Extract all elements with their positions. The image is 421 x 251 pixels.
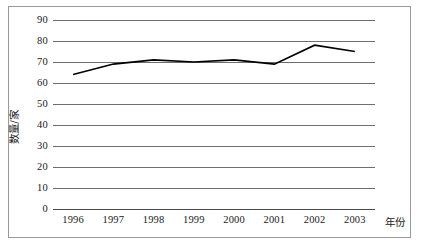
plot-area	[53, 20, 375, 209]
series-line-chart	[53, 20, 375, 209]
y-tick-label: 30	[20, 141, 48, 151]
y-tick-label: 80	[20, 36, 48, 46]
x-tick-label: 1997	[102, 214, 124, 225]
y-tick-label: 90	[20, 15, 48, 25]
y-tick-label: 60	[20, 78, 48, 88]
x-axis-tick-labels: 19961997199819992000200120022003	[53, 214, 375, 230]
y-tick-label: 10	[20, 183, 48, 193]
y-tick-label: 40	[20, 120, 48, 130]
x-tick-label: 2000	[223, 214, 245, 225]
chart-figure: 0102030405060708090 数量/家 199619971998199…	[0, 0, 421, 251]
x-tick-label: 2002	[304, 214, 326, 225]
y-tick-label: 70	[20, 57, 48, 67]
x-tick-label: 2001	[263, 214, 285, 225]
y-tick-label: 0	[20, 204, 48, 214]
x-tick-label: 1999	[183, 214, 205, 225]
x-tick-label: 2003	[344, 214, 366, 225]
x-tick-label: 1996	[62, 214, 84, 225]
y-tick-label: 20	[20, 162, 48, 172]
y-tick-label: 50	[20, 99, 48, 109]
x-tick-label: 1998	[143, 214, 165, 225]
x-axis-title: 年份	[385, 214, 405, 229]
gridline-0	[53, 209, 375, 210]
series-polyline	[73, 45, 355, 74]
y-axis-title: 数量/家	[6, 92, 20, 162]
y-axis-title-text: 数量/家	[6, 110, 21, 144]
